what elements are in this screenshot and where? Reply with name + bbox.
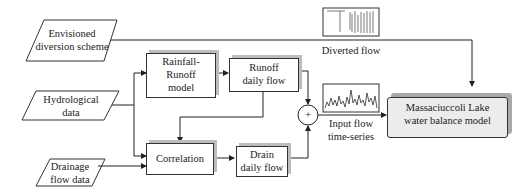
diverted-flow-label: Diverted flow [318,44,384,57]
runoff-label-2: daily flow [230,74,298,87]
drain-label-2: daily flow [237,161,287,174]
input-drain-label-2: flow data [38,173,102,186]
rainfall-runoff-model-box: Rainfall- Runoff model [146,53,216,98]
input-drainage: Drainage flow data [38,160,102,186]
input-diversion-label-2: diversion scheme [28,40,116,53]
input-flow-label: Input flow time-series [318,117,384,143]
input-hydro-label-1: Hydrological [26,93,116,106]
input-hydrological: Hydrological data [26,93,116,119]
runoff-label-1: Runoff [230,61,298,74]
input-drain-label-1: Drainage [38,160,102,173]
runoff-daily-flow-box: Runoff daily flow [229,58,299,92]
diverted-flow-chart [323,8,379,36]
correlation-box: Correlation [146,143,214,175]
sum-symbol: + [301,108,315,121]
drain-daily-flow-box: Drain daily flow [236,146,288,177]
rr-label-3: model [147,81,215,94]
input-hydro-label-2: data [26,106,116,119]
input-flow-label-1: Input flow [318,117,384,130]
drain-label-1: Drain [237,148,287,161]
correlation-label: Correlation [156,153,204,164]
input-diversion: Envisioned diversion scheme [28,27,116,53]
final-label-1: Massaciuccoli Lake [388,101,507,114]
input-diversion-label-1: Envisioned [28,27,116,40]
rr-label-2: Runoff [147,68,215,81]
input-flow-label-2: time-series [318,130,384,143]
rr-label-1: Rainfall- [147,55,215,68]
final-label-2: water balance model [388,114,507,127]
water-balance-model-box: Massaciuccoli Lake water balance model [387,97,508,138]
